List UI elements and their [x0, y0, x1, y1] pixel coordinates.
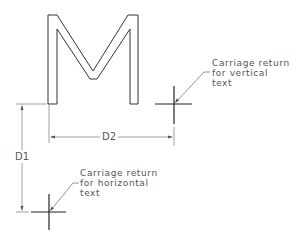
vertical-callout-text: Carriage return for vertical text [212, 58, 290, 88]
horizontal-callout-line-3: text [80, 188, 158, 198]
horizontal-carriage-return-crosshair-icon [31, 194, 66, 230]
letter-m-outline [48, 15, 138, 104]
d1-label: D1 [14, 152, 30, 162]
vertical-callout-leader [175, 72, 210, 103]
vertical-callout-line-1: Carriage return [212, 58, 290, 68]
horizontal-callout-line-1: Carriage return [80, 168, 158, 178]
horizontal-callout-line-2: for horizontal [80, 178, 158, 188]
text-carriage-return-diagram [0, 0, 299, 244]
vertical-carriage-return-crosshair-icon [155, 86, 192, 124]
d1-arrow-down-icon [21, 206, 24, 211]
horizontal-callout-leader [50, 183, 79, 211]
vertical-callout-line-2: for vertical [212, 68, 290, 78]
d1-arrow-up-icon [21, 105, 24, 110]
horizontal-callout-text: Carriage return for horizontal text [80, 168, 158, 198]
d2-arrow-left-icon [50, 136, 55, 139]
d2-label: D2 [101, 132, 117, 142]
vertical-callout-line-3: text [212, 78, 290, 88]
d2-arrow-right-icon [168, 136, 173, 139]
